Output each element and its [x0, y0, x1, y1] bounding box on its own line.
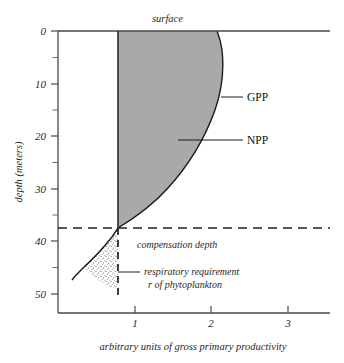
y-tick-label-40: 40	[35, 235, 47, 247]
surface-label: surface	[152, 13, 183, 24]
y-tick-label-0: 0	[41, 25, 47, 37]
npp-label: NPP	[247, 134, 268, 146]
respiratory-requirement-label-line1: respiratory requirement	[144, 266, 239, 277]
y-tick-label-30: 30	[34, 183, 47, 195]
y-tick-label-20: 20	[35, 130, 47, 142]
y-tick-label-50: 50	[35, 288, 47, 300]
gpp-label: GPP	[247, 91, 268, 103]
productivity-depth-figure: 0 10 20 30 40 50 1 2 3 surface GPP NPP c…	[0, 0, 344, 363]
x-tick-label-3: 3	[284, 317, 291, 329]
compensation-depth-label: compensation depth	[137, 239, 217, 250]
x-tick-label-1: 1	[132, 317, 138, 329]
chart-canvas: 0 10 20 30 40 50 1 2 3 surface GPP NPP c…	[0, 0, 344, 363]
x-tick-label-2: 2	[208, 317, 214, 329]
y-tick-label-10: 10	[35, 78, 47, 90]
y-axis-caption: depth (meters)	[13, 141, 25, 202]
respiratory-requirement-label-line2: r of phytoplankton	[148, 279, 222, 290]
x-axis-caption: arbitrary units of gross primary product…	[100, 341, 287, 352]
